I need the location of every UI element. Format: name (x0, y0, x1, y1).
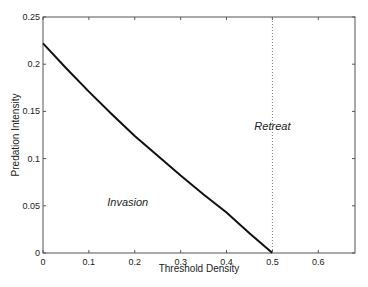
x-tick-label: 0.5 (266, 257, 279, 267)
axes-box (43, 17, 355, 253)
y-tick-label: 0.1 (27, 154, 40, 164)
x-tick-label: 0.1 (83, 257, 96, 267)
y-tick-label: 0.15 (22, 106, 40, 116)
annotation-retreat: Retreat (254, 120, 291, 132)
y-axis-label: Predation Intensity (10, 94, 21, 177)
y-tick-label: 0.2 (27, 59, 40, 69)
annotations: InvasionRetreat (107, 120, 291, 208)
ticks: 00.10.20.30.40.50.600.050.10.150.20.25 (22, 12, 355, 267)
chart: 00.10.20.30.40.50.600.050.10.150.20.25 T… (0, 0, 368, 287)
y-tick-label: 0 (35, 248, 40, 258)
x-tick-label: 0.6 (312, 257, 325, 267)
x-tick-label: 0 (40, 257, 45, 267)
annotation-invasion: Invasion (107, 196, 148, 208)
y-tick-label: 0.25 (22, 12, 40, 22)
series-boundary (43, 43, 272, 253)
plot-area (43, 17, 272, 253)
x-tick-label: 0.2 (129, 257, 142, 267)
axes (43, 17, 355, 253)
x-axis-label: Threshold Density (159, 263, 240, 274)
y-tick-label: 0.05 (22, 201, 40, 211)
